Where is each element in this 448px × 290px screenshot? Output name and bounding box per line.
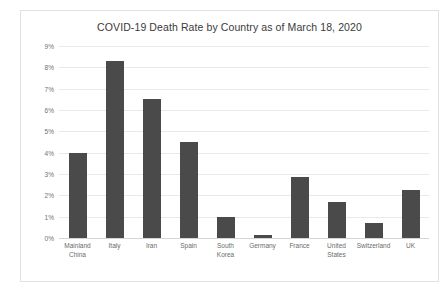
x-axis-tick-label: Iran bbox=[133, 241, 170, 259]
bar[interactable] bbox=[180, 142, 198, 238]
chart-title: COVID-19 Death Rate by Country as of Mar… bbox=[21, 21, 438, 33]
x-axis-tick-labels: Mainland ChinaItalyIranSpainSouth KoreaG… bbox=[59, 241, 429, 259]
bar[interactable] bbox=[217, 217, 235, 238]
bar-slot bbox=[281, 46, 318, 238]
bar[interactable] bbox=[254, 235, 272, 238]
y-axis-tick-label: 6% bbox=[45, 107, 54, 114]
x-axis-tick-label: UK bbox=[392, 241, 429, 259]
bar-slot bbox=[170, 46, 207, 238]
y-axis-tick-label: 0% bbox=[45, 235, 54, 242]
chart-container: COVID-19 Death Rate by Country as of Mar… bbox=[20, 10, 439, 282]
bar-slot bbox=[355, 46, 392, 238]
y-axis-tick-label: 8% bbox=[45, 64, 54, 71]
bar[interactable] bbox=[106, 61, 124, 238]
bar-slot bbox=[133, 46, 170, 238]
bar-slot bbox=[244, 46, 281, 238]
bar-slot bbox=[318, 46, 355, 238]
plot-area: 9%8%7%6%5%4%3%2%1%0% bbox=[59, 46, 429, 238]
x-axis-tick-label: Italy bbox=[96, 241, 133, 259]
gridline bbox=[59, 238, 429, 239]
x-axis-tick-label: South Korea bbox=[207, 241, 244, 259]
x-axis-tick-label: Spain bbox=[170, 241, 207, 259]
x-axis-tick-label: United States bbox=[318, 241, 355, 259]
bar[interactable] bbox=[328, 202, 346, 238]
x-axis-tick-label: Mainland China bbox=[59, 241, 96, 259]
bar[interactable] bbox=[291, 177, 309, 238]
bar[interactable] bbox=[69, 153, 87, 238]
bar-slot bbox=[59, 46, 96, 238]
bar-slot bbox=[207, 46, 244, 238]
y-axis-tick-label: 4% bbox=[45, 149, 54, 156]
bar-series bbox=[59, 46, 429, 238]
y-axis-tick-label: 1% bbox=[45, 213, 54, 220]
x-axis-tick-label: Germany bbox=[244, 241, 281, 259]
bar[interactable] bbox=[365, 223, 383, 238]
bar-slot bbox=[392, 46, 429, 238]
x-axis-tick-label: Switzerland bbox=[355, 241, 392, 259]
y-axis-tick-label: 2% bbox=[45, 192, 54, 199]
y-axis-tick-label: 9% bbox=[45, 43, 54, 50]
bar[interactable] bbox=[143, 99, 161, 238]
x-axis-tick-label: France bbox=[281, 241, 318, 259]
bar-slot bbox=[96, 46, 133, 238]
y-axis-tick-label: 7% bbox=[45, 85, 54, 92]
y-axis-tick-label: 3% bbox=[45, 171, 54, 178]
y-axis-tick-label: 5% bbox=[45, 128, 54, 135]
bar[interactable] bbox=[402, 190, 420, 238]
